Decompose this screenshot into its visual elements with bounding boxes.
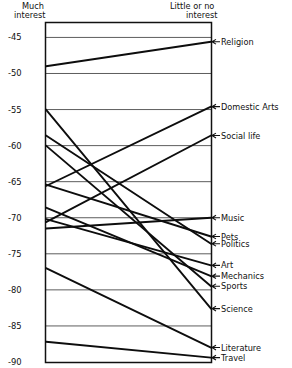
slope-chart: Much interest Little or no interest -45-… [0,0,292,368]
category-labels: ReligionDomestic ArtsSocial lifeMusicPet… [212,37,279,363]
category-label-mechanics: Mechanics [221,271,264,281]
left-axis-title-line2: interest [14,10,46,20]
arrow-icon-literature [212,345,220,350]
y-tick-label: -75 [8,249,22,259]
arrow-icon-politics [212,241,220,246]
arrow-icon-pets [212,234,220,239]
series-line-sports [46,146,211,287]
arrow-icon-religion [212,39,220,44]
category-label-science: Science [221,304,253,314]
y-tick-label: -50 [8,68,22,78]
category-label-literature: Literature [221,343,261,353]
series-line-religion [46,42,211,67]
category-label-music: Music [221,213,244,223]
series-line-travel [46,342,211,358]
y-tick-label: -90 [8,357,22,367]
chart-canvas: Much interest Little or no interest -45-… [0,0,292,368]
category-label-domestic-arts: Domestic Arts [221,102,279,112]
arrow-icon-science [212,306,220,311]
y-tick-label: -80 [8,285,22,295]
category-label-social-life: Social life [221,131,260,141]
arrow-icon-sports [212,284,220,289]
category-label-sports: Sports [221,281,247,291]
category-label-religion: Religion [221,37,254,47]
arrow-icon-travel [212,355,220,360]
y-tick-label: -85 [8,321,22,331]
y-tick-label: -65 [8,177,22,187]
y-tick-label: -55 [8,105,22,115]
gridlines [46,37,211,326]
series-lines [46,42,211,358]
right-axis-title-line2: interest [186,10,218,20]
y-tick-label: -45 [8,32,22,42]
series-line-domestic-arts [46,107,211,186]
arrow-icon-mechanics [212,274,220,279]
arrow-icon-domestic-arts [212,104,220,109]
category-label-travel: Travel [220,353,245,363]
y-tick-label: -60 [8,141,22,151]
arrow-icon-music [212,215,220,220]
y-axis-tick-labels: -45-50-55-60-65-70-75-80-85-90 [8,32,22,367]
y-tick-label: -70 [8,213,22,223]
category-label-politics: Politics [221,239,249,249]
arrow-icon-art [212,263,220,268]
arrow-icon-social-life [212,133,220,138]
category-label-art: Art [221,260,234,270]
